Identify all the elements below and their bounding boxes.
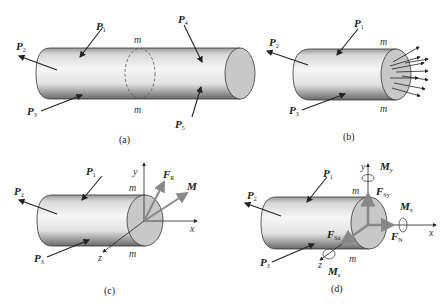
load-label-p2: P2 [14, 185, 24, 198]
panel-b: P1 P2 P3 m m (b) [267, 17, 428, 143]
axis-label-x: x [428, 227, 434, 238]
resultant-label-fr: FR [162, 168, 174, 181]
moment-mz-curl-icon [323, 249, 335, 259]
cylinder-body [293, 49, 396, 100]
load-label-p3: P3 [260, 256, 270, 269]
section-label-m-bottom: m [380, 103, 387, 114]
load-label-p5: P5 [175, 118, 185, 131]
load-label-p2: P2 [247, 189, 257, 202]
section-label-m-top: m [380, 36, 387, 47]
section-label-m-bottom: m [134, 104, 141, 115]
axis-label-y: y [132, 166, 138, 177]
load-label-p2: P2 [16, 40, 26, 53]
cylinder-end-face [225, 48, 255, 99]
component-label-mx: Mx [399, 200, 413, 213]
load-label-p3: P3 [27, 105, 37, 118]
load-label-p4: P4 [178, 13, 188, 26]
load-label-p3: P3 [289, 104, 299, 117]
section-label-m-top: m [352, 185, 359, 196]
section-label-m-top: m [129, 182, 136, 193]
section-label-m-bottom: m [129, 248, 136, 259]
figure-canvas: P1 P2 P3 P4 P5 m m (a) P1 P2 P3 m m (b) [0, 0, 448, 305]
component-label-my: My [379, 160, 393, 173]
panel-a: P1 P2 P3 P4 P5 m m (a) [16, 13, 255, 146]
axis-label-z: z [97, 252, 102, 263]
caption-a: (a) [119, 134, 130, 146]
caption-b: (b) [343, 131, 355, 143]
caption-d: (d) [331, 283, 343, 295]
load-label-p2: P2 [269, 36, 279, 49]
component-label-mz: Mz [327, 265, 341, 278]
component-label-fn: FN [390, 230, 403, 243]
load-label-p1: P1 [323, 167, 333, 180]
axis-label-y: y [360, 161, 366, 172]
panel-c: P1 P2 P3 m m y x z FR M (c) [14, 163, 198, 297]
load-label-p3: P3 [34, 252, 44, 265]
load-label-p1: P1 [86, 165, 96, 178]
axis-label-z: z [317, 259, 322, 270]
caption-c: (c) [104, 285, 115, 297]
section-label-m-bottom: m [349, 253, 356, 264]
component-label-fsy: FSy [375, 185, 390, 198]
load-label-p1: P1 [354, 17, 364, 30]
cylinder-body [36, 48, 240, 99]
axis-label-x: x [189, 223, 195, 234]
resultant-label-m: M [186, 180, 198, 192]
load-label-p1: P1 [96, 20, 106, 33]
section-label-m-top: m [134, 34, 141, 45]
panel-d: P1 P2 P3 m m y x z FSy FSz FN Mx My Mz (… [245, 160, 436, 295]
